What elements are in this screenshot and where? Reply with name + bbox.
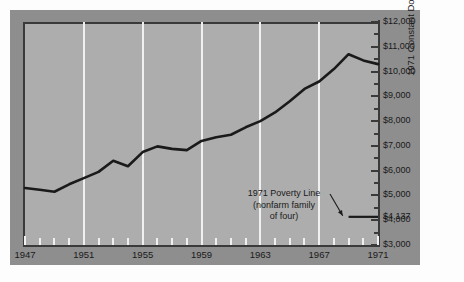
x-tick-1957 <box>171 238 173 245</box>
y-tick-6500 <box>374 157 379 159</box>
x-tick-1968 <box>333 238 335 245</box>
x-tick-label-1951: 1951 <box>73 250 94 260</box>
poverty-line-annotation: 1971 Poverty Line (nonfarm family of fou… <box>224 188 344 223</box>
y-tick-10500 <box>374 58 379 60</box>
y-tick-poverty <box>371 216 379 218</box>
y-tick-label-7000: $7,000 <box>383 141 411 150</box>
y-tick-12000 <box>371 21 379 23</box>
x-tick-1969 <box>348 238 350 245</box>
x-tick-1966 <box>303 238 305 245</box>
x-tick-label-1955: 1955 <box>132 250 153 260</box>
chart-figure: $3,000$4,000$5,000$6,000$7,000$8,000$9,0… <box>0 0 464 282</box>
x-tick-1958 <box>186 238 188 245</box>
gridline-1959 <box>201 22 203 245</box>
x-tick-1953 <box>112 238 114 245</box>
x-tick-1961 <box>230 238 232 245</box>
y-tick-5500 <box>374 182 379 184</box>
x-tick-1965 <box>289 238 291 245</box>
y-tick-10000 <box>371 71 379 73</box>
gridline-1955 <box>142 22 144 245</box>
y-tick-label-5000: $5,000 <box>383 190 411 199</box>
x-tick-1967 <box>318 236 320 245</box>
y-tick-5000 <box>371 194 379 196</box>
annotation-line-2: (nonfarm family <box>224 200 344 212</box>
x-tick-label-1947: 1947 <box>14 250 35 260</box>
x-tick-1955 <box>142 236 144 245</box>
x-tick-1959 <box>201 236 203 245</box>
y-tick-4500 <box>374 207 379 209</box>
x-tick-label-1967: 1967 <box>309 250 330 260</box>
gridline-1951 <box>83 22 85 245</box>
x-tick-1952 <box>98 238 100 245</box>
x-tick-label-1971: 1971 <box>367 250 388 260</box>
x-tick-1948 <box>39 238 41 245</box>
y-axis-title: 1971 Constant Dollars <box>406 0 416 76</box>
x-tick-1956 <box>156 238 158 245</box>
y-tick-9000 <box>371 95 379 97</box>
x-tick-1950 <box>68 238 70 245</box>
annotation-line-3: of four) <box>224 211 344 223</box>
x-tick-label-1959: 1959 <box>191 250 212 260</box>
x-axis-line <box>23 245 380 247</box>
y-tick-8000 <box>371 120 379 122</box>
x-tick-1951 <box>83 236 85 245</box>
x-tick-1947 <box>24 236 26 245</box>
y-tick-label-9000: $9,000 <box>383 91 411 100</box>
y-tick-label-8000: $8,000 <box>383 116 411 125</box>
y-tick-6000 <box>371 170 379 172</box>
x-tick-1960 <box>215 238 217 245</box>
x-tick-1964 <box>274 238 276 245</box>
x-tick-1949 <box>53 238 55 245</box>
y-tick-11500 <box>374 33 379 35</box>
y-tick-3500 <box>374 232 379 234</box>
annotation-line-1: 1971 Poverty Line <box>224 188 344 200</box>
y-tick-label-3000: $3,000 <box>383 240 411 249</box>
poverty-line-value-label: $4,137 <box>383 212 411 221</box>
y-tick-7000 <box>371 145 379 147</box>
y-tick-8500 <box>374 108 379 110</box>
y-tick-4000 <box>371 219 379 221</box>
y-tick-9500 <box>374 83 379 85</box>
x-tick-1963 <box>259 236 261 245</box>
x-tick-label-1963: 1963 <box>250 250 271 260</box>
x-tick-1962 <box>245 238 247 245</box>
x-tick-1971 <box>377 236 379 245</box>
x-tick-1954 <box>127 238 129 245</box>
y-tick-11000 <box>371 46 379 48</box>
y-tick-label-6000: $6,000 <box>383 166 411 175</box>
x-tick-1970 <box>362 238 364 245</box>
y-tick-7500 <box>374 133 379 135</box>
